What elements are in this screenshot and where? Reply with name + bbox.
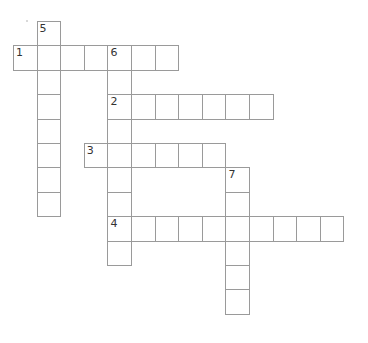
crossword-cell[interactable] — [178, 94, 203, 119]
crossword-cell[interactable]: 6 — [107, 45, 132, 70]
clue-number: 4 — [110, 218, 117, 230]
crossword-cell[interactable]: 1 — [13, 45, 38, 70]
crossword-cell[interactable] — [131, 143, 156, 168]
clue-number: 5 — [40, 23, 47, 35]
crossword-cell[interactable] — [225, 265, 250, 290]
crossword-cell[interactable]: 7 — [225, 167, 250, 192]
crossword-cell[interactable] — [155, 216, 180, 241]
crossword-cell[interactable] — [273, 216, 298, 241]
crossword-grid: 1623457 — [0, 0, 368, 343]
crossword-cell[interactable] — [107, 241, 132, 266]
crossword-cell[interactable] — [225, 192, 250, 217]
crossword-cell[interactable] — [131, 94, 156, 119]
crossword-cell[interactable] — [155, 94, 180, 119]
crossword-cell[interactable]: 3 — [84, 143, 109, 168]
crossword-cell[interactable] — [155, 45, 180, 70]
crossword-cell[interactable] — [131, 216, 156, 241]
clue-number: 3 — [87, 145, 94, 157]
crossword-cell[interactable] — [202, 94, 227, 119]
crossword-cell[interactable] — [249, 216, 274, 241]
clue-number: 7 — [228, 169, 235, 181]
crossword-cell[interactable] — [37, 119, 62, 144]
crossword-cell[interactable]: 2 — [107, 94, 132, 119]
crossword-cell[interactable] — [202, 216, 227, 241]
clue-number: 1 — [16, 47, 23, 59]
crossword-cell[interactable] — [155, 143, 180, 168]
crossword-cell[interactable] — [37, 192, 62, 217]
crossword-cell[interactable] — [225, 94, 250, 119]
crossword-cell[interactable] — [84, 45, 109, 70]
crossword-cell[interactable] — [225, 289, 250, 314]
stray-dot — [26, 20, 28, 22]
crossword-cell[interactable] — [37, 167, 62, 192]
crossword-cell[interactable] — [37, 143, 62, 168]
crossword-cell[interactable] — [60, 45, 85, 70]
crossword-cell[interactable] — [178, 143, 203, 168]
crossword-cell[interactable] — [131, 45, 156, 70]
clue-number: 6 — [110, 47, 117, 59]
crossword-cell[interactable] — [296, 216, 321, 241]
clue-number: 2 — [110, 96, 117, 108]
crossword-cell[interactable] — [37, 70, 62, 95]
crossword-cell[interactable] — [320, 216, 345, 241]
crossword-cell[interactable]: 5 — [37, 21, 62, 46]
crossword-cell[interactable] — [225, 216, 250, 241]
crossword-cell[interactable] — [107, 192, 132, 217]
crossword-cell[interactable] — [37, 94, 62, 119]
crossword-cell[interactable]: 4 — [107, 216, 132, 241]
crossword-cell[interactable] — [37, 45, 62, 70]
crossword-cell[interactable] — [107, 70, 132, 95]
crossword-cell[interactable] — [249, 94, 274, 119]
crossword-cell[interactable] — [107, 119, 132, 144]
crossword-cell[interactable] — [107, 167, 132, 192]
crossword-cell[interactable] — [225, 241, 250, 266]
crossword-cell[interactable] — [178, 216, 203, 241]
crossword-cell[interactable] — [107, 143, 132, 168]
crossword-cell[interactable] — [202, 143, 227, 168]
